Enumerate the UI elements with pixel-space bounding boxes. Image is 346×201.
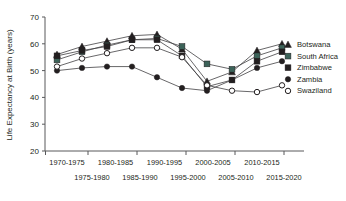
legend-item-swaziland: Swaziland <box>285 86 331 95</box>
legend-marker-square <box>285 65 291 71</box>
y-tick-label: 60 <box>30 40 39 49</box>
legend-label: South Africa <box>297 52 339 61</box>
life-expectancy-chart: 203040506070 1970-19751980-19851990-1995… <box>0 0 346 201</box>
data-point-circle-open <box>254 89 259 94</box>
data-point-square <box>104 44 110 50</box>
y-tick-label: 50 <box>30 67 39 76</box>
data-point-circle-open <box>79 56 84 61</box>
legend-label: Zimbabwe <box>297 63 332 72</box>
data-point-circle-filled <box>129 64 134 69</box>
data-point-circle-filled <box>179 85 184 90</box>
series-line <box>57 48 282 92</box>
y-tick-label: 70 <box>30 13 39 22</box>
x-tick-label-top: 1990-1995 <box>147 158 182 167</box>
legend-label: Swaziland <box>297 86 332 95</box>
legend-marker-square-green <box>285 53 291 59</box>
data-point-circle-filled <box>279 59 284 64</box>
data-point-square-green <box>204 61 210 67</box>
data-point-circle-filled <box>104 64 109 69</box>
y-axis: 203040506070 <box>30 13 45 156</box>
data-point-circle-open <box>179 55 184 60</box>
x-tick-label-top: 2010-2015 <box>244 158 279 167</box>
legend-marker-circle-open <box>285 88 290 93</box>
series-botswana <box>54 31 286 84</box>
x-tick-label-bottom: 1985-1990 <box>122 173 157 182</box>
data-point-circle-open <box>104 50 109 55</box>
data-point-square <box>254 58 260 64</box>
data-point-circle-open <box>129 45 134 50</box>
data-point-circle-filled <box>204 88 209 93</box>
data-point-circle-filled <box>254 65 259 70</box>
data-point-circle-open <box>154 45 159 50</box>
y-axis-title: Life Expectancy at Birth (years) <box>5 29 14 140</box>
legend-label: Botswana <box>297 40 331 49</box>
y-tick-label: 40 <box>30 93 39 102</box>
chart-canvas: 203040506070 1970-19751980-19851990-1995… <box>0 0 346 201</box>
data-point-circle-filled <box>79 65 84 70</box>
series-line <box>57 61 282 90</box>
x-tick-label-bottom: 2005-2010 <box>218 173 253 182</box>
x-tick-label-top: 2000-2005 <box>195 158 230 167</box>
chart-legend: BotswanaSouth AfricaZimbabweZambiaSwazil… <box>285 40 339 95</box>
y-tick-label: 30 <box>30 120 39 129</box>
data-point-square <box>279 49 285 55</box>
data-point-circle-filled <box>154 75 159 80</box>
legend-marker-circle-filled <box>285 77 290 82</box>
data-point-circle-filled <box>229 77 234 82</box>
data-point-circle-open <box>204 83 209 88</box>
series-line <box>57 40 282 87</box>
legend-item-zimbabwe: Zimbabwe <box>285 63 332 72</box>
data-point-square <box>54 53 60 59</box>
legend-marker-triangle <box>285 41 292 47</box>
x-tick-label-top: 1970-1975 <box>49 158 84 167</box>
data-point-circle-open <box>279 83 284 88</box>
series-line <box>57 38 282 69</box>
data-point-square-green <box>179 44 185 50</box>
legend-label: Zambia <box>297 75 323 84</box>
x-tick-label-bottom: 2015-2020 <box>266 173 301 182</box>
x-tick-label-bottom: 1995-2000 <box>170 173 205 182</box>
data-point-circle-open <box>229 88 234 93</box>
data-series-group <box>54 31 286 95</box>
series-zambia <box>54 59 284 94</box>
x-tick-label-bottom: 1975-1980 <box>74 173 109 182</box>
legend-item-south-africa: South Africa <box>285 52 339 61</box>
legend-item-zambia: Zambia <box>285 75 323 84</box>
x-axis: 1970-19751980-19851990-19952000-20052010… <box>45 151 304 182</box>
data-point-square-green <box>229 66 235 72</box>
x-tick-label-top: 1980-1985 <box>98 158 133 167</box>
y-tick-label: 20 <box>30 147 39 156</box>
legend-item-botswana: Botswana <box>285 40 332 49</box>
data-point-square <box>154 37 160 43</box>
data-point-square <box>79 48 85 54</box>
data-point-square <box>129 37 135 43</box>
data-point-square-green <box>254 53 260 59</box>
series-line <box>57 34 282 81</box>
series-swaziland <box>54 45 284 95</box>
data-point-circle-open <box>54 64 59 69</box>
